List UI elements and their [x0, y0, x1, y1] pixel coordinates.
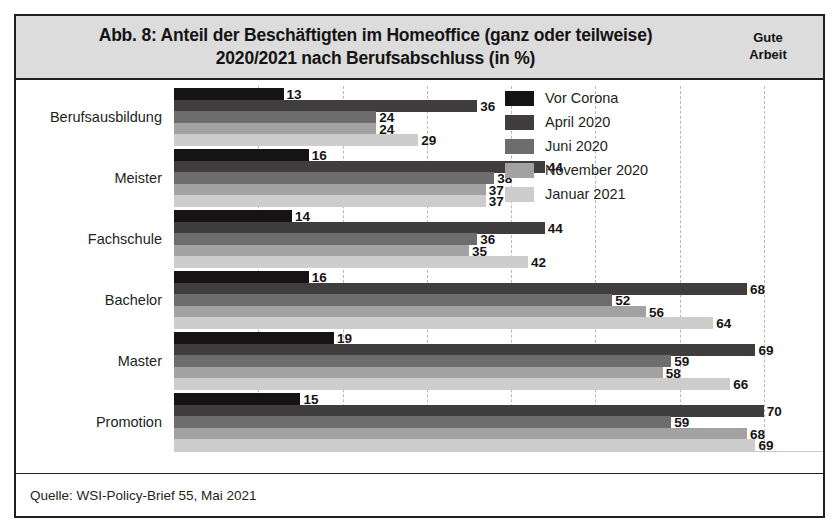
title-line-1: Abb. 8: Anteil der Beschäftigten im Home…: [99, 25, 653, 45]
title-line-2: 2020/2021 nach Berufsabschluss (in %): [30, 47, 721, 70]
legend-label: Juni 2020: [545, 138, 608, 154]
chart-frame: Abb. 8: Anteil der Beschäftigten im Home…: [14, 14, 825, 518]
bar: 69: [174, 344, 755, 356]
bars-container: 1336242429: [174, 86, 823, 147]
bar-group: Meister1644383737: [16, 147, 823, 208]
bar: 37: [174, 184, 486, 196]
bar: 59: [174, 355, 671, 367]
chart-legend: Vor CoronaApril 2020Juni 2020November 20…: [505, 86, 685, 206]
legend-swatch: [505, 163, 534, 178]
bar: 58: [174, 367, 663, 379]
chart-header: Abb. 8: Anteil der Beschäftigten im Home…: [16, 16, 823, 80]
legend-swatch: [505, 115, 534, 130]
brand-line-1: Gute: [725, 30, 811, 47]
bar-value-label: 44: [548, 220, 563, 235]
bar: 15: [174, 393, 300, 405]
bar-value-label: 36: [480, 98, 495, 113]
bar: 44: [174, 161, 545, 173]
bar: 56: [174, 306, 646, 318]
legend-item: November 2020: [505, 158, 685, 182]
bar: 59: [174, 416, 671, 428]
bar: 35: [174, 245, 469, 257]
legend-item: Januar 2021: [505, 182, 685, 206]
bar-group: Fachschule1444363542: [16, 208, 823, 269]
bar: 36: [174, 233, 477, 245]
bar: 69: [174, 439, 755, 451]
bar-value-label: 64: [716, 316, 731, 331]
bar-value-label: 66: [733, 377, 748, 392]
category-label-fachschule: Fachschule: [16, 208, 168, 269]
bars-container: 1570596869: [174, 391, 823, 452]
legend-swatch: [505, 139, 534, 154]
bar-group: Bachelor1668525664: [16, 269, 823, 330]
bar-value-label: 29: [421, 133, 436, 148]
bar-group: Promotion1570596869: [16, 391, 823, 452]
source-note: Quelle: WSI-Policy-Brief 55, Mai 2021: [16, 488, 257, 503]
bar-value-label: 70: [767, 403, 782, 418]
brand-line-2: Arbeit: [725, 47, 811, 64]
bar: 29: [174, 134, 418, 146]
legend-label: Vor Corona: [545, 90, 618, 106]
bar: 38: [174, 172, 494, 184]
bar: 66: [174, 378, 730, 390]
category-label-promotion: Promotion: [16, 391, 168, 452]
brand-logo: Gute Arbeit: [725, 30, 823, 63]
bar: 24: [174, 111, 376, 123]
page-title: Abb. 8: Anteil der Beschäftigten im Home…: [16, 24, 725, 70]
legend-label: April 2020: [545, 114, 610, 130]
bar: 36: [174, 100, 477, 112]
legend-swatch: [505, 187, 534, 202]
bar: 52: [174, 294, 612, 306]
bars-container: 1969595866: [174, 330, 823, 391]
bar-value-label: 69: [758, 342, 773, 357]
category-label-berufsausbildung: Berufsausbildung: [16, 86, 168, 147]
chart-footer: Quelle: WSI-Policy-Brief 55, Mai 2021: [16, 473, 823, 516]
bars-container: 1444363542: [174, 208, 823, 269]
bar-value-label: 42: [531, 255, 546, 270]
bar: 68: [174, 283, 747, 295]
legend-swatch: [505, 91, 534, 106]
bars-container: 1644383737: [174, 147, 823, 208]
plot-wrapper: Berufsausbildung1336242429Meister1644383…: [16, 80, 823, 516]
legend-label: Januar 2021: [545, 186, 626, 202]
bar-group: Master1969595866: [16, 330, 823, 391]
bar: 13: [174, 88, 284, 100]
bar-chart-plot: Berufsausbildung1336242429Meister1644383…: [16, 80, 823, 456]
bars-container: 1668525664: [174, 269, 823, 330]
legend-item: Juni 2020: [505, 134, 685, 158]
bar: 16: [174, 271, 309, 283]
category-label-bachelor: Bachelor: [16, 269, 168, 330]
figure-container: Abb. 8: Anteil der Beschäftigten im Home…: [0, 0, 839, 532]
bar: 42: [174, 256, 528, 268]
bar-value-label: 68: [750, 281, 765, 296]
bar: 64: [174, 317, 713, 329]
bar: 37: [174, 195, 486, 207]
bar: 14: [174, 210, 292, 222]
legend-item: Vor Corona: [505, 86, 685, 110]
bar-group: Berufsausbildung1336242429: [16, 86, 823, 147]
category-label-meister: Meister: [16, 147, 168, 208]
bar: 24: [174, 123, 376, 135]
category-label-master: Master: [16, 330, 168, 391]
bar-value-label: 69: [758, 438, 773, 453]
bar: 19: [174, 332, 334, 344]
legend-label: November 2020: [545, 162, 648, 178]
bar-value-label: 37: [489, 194, 504, 209]
legend-item: April 2020: [505, 110, 685, 134]
bar: 16: [174, 149, 309, 161]
bar: 68: [174, 428, 747, 440]
